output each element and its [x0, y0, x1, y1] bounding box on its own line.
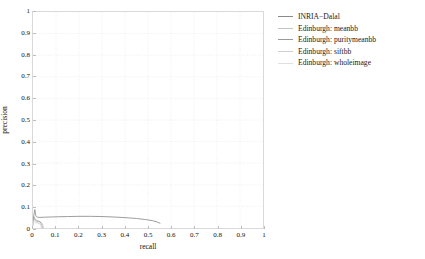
y-axis-tick-label: 0.5 — [21, 116, 30, 124]
x-axis-tick — [102, 226, 103, 229]
legend-swatch-icon — [278, 16, 293, 17]
x-axis-tick — [241, 226, 242, 229]
legend-item-label: INRIA−Dalal — [298, 11, 340, 23]
y-axis-tick — [33, 55, 36, 56]
x-axis-tick — [55, 226, 56, 229]
y-axis-tick-label: 0.1 — [21, 203, 30, 211]
y-axis-title: precision — [0, 106, 9, 134]
x-axis-tick-label: 0.7 — [190, 231, 199, 240]
y-axis-tick — [33, 229, 36, 230]
legend-swatch-icon — [278, 39, 293, 40]
y-axis-tick-label: 0.8 — [21, 51, 30, 59]
y-axis-tick — [33, 11, 36, 12]
x-axis-tick-label: 0.6 — [167, 231, 176, 240]
y-axis-tick-label: 1 — [27, 7, 31, 15]
x-axis-tick-label: 0.8 — [213, 231, 222, 240]
y-axis-tick-label: 0.9 — [21, 29, 30, 37]
x-axis-tick-label: 0.1 — [51, 231, 60, 240]
x-axis-tick-label: 0.9 — [236, 231, 245, 240]
y-axis-tick-label: 0.6 — [21, 94, 30, 102]
legend-item: Edinburgh: wholeimage — [278, 57, 423, 69]
y-axis-tick — [33, 33, 36, 34]
series-line — [33, 210, 160, 224]
legend-swatch-icon — [278, 51, 293, 52]
legend-item: Edinburgh: puritymeanbb — [278, 34, 423, 46]
legend-item: INRIA−Dalal — [278, 11, 423, 23]
x-axis-tick — [148, 226, 149, 229]
y-axis-tick — [33, 76, 36, 77]
y-axis-tick-label: 0.2 — [21, 181, 30, 189]
legend-item-label: Edinburgh: meanbb — [298, 23, 358, 35]
chart-legend: INRIA−DalalEdinburgh: meanbbEdinburgh: p… — [278, 11, 423, 69]
legend-item: Edinburgh: siftbb — [278, 46, 423, 58]
y-axis-tick — [33, 164, 36, 165]
legend-item-label: Edinburgh: puritymeanbb — [298, 34, 376, 46]
x-axis-tick — [78, 226, 79, 229]
x-axis-tick-label: 0.5 — [144, 231, 153, 240]
x-axis-tick — [218, 226, 219, 229]
legend-swatch-icon — [278, 28, 293, 29]
x-axis-tick-label: 0.2 — [74, 231, 83, 240]
x-axis-tick-label: 1 — [262, 231, 266, 240]
x-axis-tick — [125, 226, 126, 229]
x-axis-tick-label: 0.4 — [120, 231, 129, 240]
x-axis-tick-label: 0.3 — [97, 231, 106, 240]
x-axis-title: recall — [140, 242, 157, 251]
y-axis-tick — [33, 142, 36, 143]
x-axis-tick — [194, 226, 195, 229]
legend-item-label: Edinburgh: wholeimage — [298, 57, 371, 69]
y-axis-tick-label: 0.4 — [21, 138, 30, 146]
y-axis-tick — [33, 207, 36, 208]
legend-swatch-icon — [278, 63, 293, 64]
y-axis-tick-label: 0.7 — [21, 72, 30, 80]
x-axis-tick — [171, 226, 172, 229]
plot-area — [32, 11, 264, 229]
x-axis-tick-label: 0 — [30, 231, 34, 240]
legend-item: Edinburgh: meanbb — [278, 23, 423, 35]
data-series-layer — [33, 12, 263, 228]
y-axis-tick-label: 0.3 — [21, 160, 30, 168]
chart-root: 00.10.20.30.40.50.60.70.80.9100.10.20.30… — [0, 0, 425, 259]
y-axis-tick-label: 0 — [27, 225, 31, 233]
y-axis-tick — [33, 120, 36, 121]
legend-item-label: Edinburgh: siftbb — [298, 46, 351, 58]
x-axis-tick — [264, 226, 265, 229]
y-axis-tick — [33, 98, 36, 99]
y-axis-tick — [33, 185, 36, 186]
